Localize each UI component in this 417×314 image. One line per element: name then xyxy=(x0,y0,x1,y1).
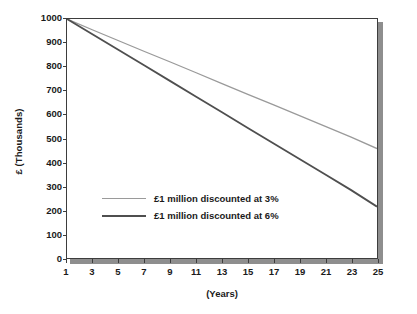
x-axis-title: (Years) xyxy=(66,288,378,299)
legend-swatch-3pct xyxy=(102,194,146,204)
x-tick-mark xyxy=(170,259,171,263)
y-tick-label: 300 xyxy=(30,182,62,192)
x-tick-mark xyxy=(144,259,145,263)
x-tick-mark xyxy=(326,259,327,263)
x-tick-mark xyxy=(118,259,119,263)
legend-swatch-6pct xyxy=(102,211,146,221)
y-tick-label: 700 xyxy=(30,85,62,95)
x-tick-mark xyxy=(92,259,93,263)
legend-label-6pct: £1 million discounted at 6% xyxy=(154,210,279,221)
x-tick-mark xyxy=(378,259,379,263)
x-tick-mark xyxy=(222,259,223,263)
legend-item-3pct: £1 million discounted at 3% xyxy=(102,190,279,207)
y-tick-label: 500 xyxy=(30,134,62,144)
x-tick-mark xyxy=(352,259,353,263)
x-axis-tick-labels: 135791113151719212325 xyxy=(66,266,378,280)
y-tick-label: 800 xyxy=(30,61,62,71)
x-tick-mark xyxy=(300,259,301,263)
x-tick-mark xyxy=(66,259,67,263)
x-tick-label: 25 xyxy=(363,266,393,277)
y-tick-label: 1000 xyxy=(30,13,62,23)
series-line xyxy=(67,19,377,207)
x-tick-mark xyxy=(248,259,249,263)
series-line xyxy=(67,19,377,149)
y-tick-label: 0 xyxy=(30,254,62,264)
x-tick-mark xyxy=(196,259,197,263)
y-axis-title: £ (Thousands) xyxy=(13,82,24,202)
chart-legend: £1 million discounted at 3% £1 million d… xyxy=(102,190,279,224)
x-tick-mark xyxy=(274,259,275,263)
y-tick-label: 400 xyxy=(30,158,62,168)
legend-label-3pct: £1 million discounted at 3% xyxy=(154,193,279,204)
legend-item-6pct: £1 million discounted at 6% xyxy=(102,207,279,224)
discounting-line-chart: £ (Thousands) 01002003004005006007008009… xyxy=(0,0,417,314)
x-axis-tick-marks xyxy=(66,259,378,264)
y-tick-label: 200 xyxy=(30,206,62,216)
y-tick-label: 600 xyxy=(30,109,62,119)
y-axis-tick-labels: 01002003004005006007008009001000 xyxy=(30,12,62,264)
y-tick-label: 900 xyxy=(30,37,62,47)
y-tick-label: 100 xyxy=(30,230,62,240)
